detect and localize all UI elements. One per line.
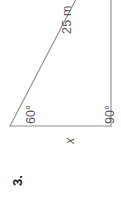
triangle-hypotenuse-line — [10, 0, 86, 126]
base-side-label-x: x — [64, 138, 77, 144]
problem-number-label: 3. — [11, 175, 24, 186]
angle-label-60: 60° — [25, 105, 38, 124]
hypotenuse-length-label: 25 m — [61, 5, 74, 34]
geometry-figure: 25 m 60° 90° x 3. — [0, 0, 121, 207]
angle-label-90: 90° — [104, 105, 117, 124]
